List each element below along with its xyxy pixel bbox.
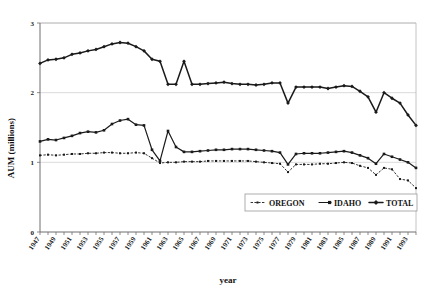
data-point — [375, 174, 377, 176]
data-point — [231, 148, 234, 151]
data-point — [367, 167, 369, 169]
legend-label: TOTAL — [386, 199, 413, 208]
data-point — [327, 163, 329, 165]
data-point — [79, 153, 81, 155]
data-point — [143, 124, 146, 127]
data-point — [95, 152, 97, 154]
y-tick-label: 1 — [31, 159, 35, 167]
data-point — [71, 153, 73, 155]
data-point — [255, 148, 258, 151]
data-point — [199, 150, 202, 153]
data-point — [191, 161, 193, 163]
data-point — [399, 178, 401, 180]
data-point — [167, 161, 169, 163]
data-point — [367, 157, 370, 160]
data-point — [383, 167, 385, 169]
legend-label: OREGON — [269, 199, 305, 208]
data-point — [351, 162, 353, 164]
data-point — [279, 151, 282, 154]
data-point — [383, 153, 386, 156]
data-point — [287, 171, 289, 173]
data-point — [295, 163, 297, 165]
data-point — [263, 149, 266, 152]
data-point — [279, 163, 281, 165]
data-point — [407, 179, 409, 181]
data-point — [183, 161, 185, 163]
data-point — [151, 157, 153, 159]
data-point — [263, 161, 265, 163]
data-point — [119, 119, 122, 122]
data-point — [167, 130, 170, 133]
data-point — [127, 152, 129, 154]
data-point — [103, 152, 105, 154]
y-tick-label: 0 — [31, 229, 35, 237]
data-point — [87, 152, 89, 154]
legend-label: IDAHO — [334, 199, 361, 208]
data-point — [231, 160, 233, 162]
data-point — [159, 162, 161, 164]
data-point — [391, 155, 394, 158]
data-point — [327, 151, 330, 154]
aum-line-chart: 0123 19471949195119531955195719591961196… — [0, 0, 446, 290]
data-point — [215, 160, 217, 162]
data-point — [159, 160, 162, 163]
data-point — [399, 158, 402, 161]
data-point — [271, 162, 273, 164]
data-point — [63, 137, 66, 140]
data-point — [415, 187, 417, 189]
data-point — [55, 154, 57, 156]
data-point — [351, 151, 354, 154]
data-point — [95, 131, 98, 134]
data-point — [295, 153, 298, 156]
data-point — [391, 168, 393, 170]
y-tick-label: 2 — [31, 89, 35, 97]
data-point — [343, 161, 345, 163]
data-point — [303, 152, 306, 155]
data-point — [39, 140, 42, 143]
data-point — [335, 162, 337, 164]
data-point — [415, 167, 418, 170]
data-point — [103, 129, 106, 132]
data-point — [71, 135, 74, 138]
data-point — [215, 148, 218, 151]
x-axis-title: year — [220, 275, 237, 285]
data-point — [55, 139, 58, 142]
data-point — [335, 151, 338, 154]
data-point — [359, 165, 361, 167]
legend-marker — [257, 202, 259, 204]
data-point — [247, 148, 250, 151]
data-point — [175, 146, 178, 149]
data-point — [87, 130, 90, 133]
data-point — [151, 148, 154, 151]
data-point — [143, 152, 145, 154]
data-point — [271, 150, 274, 153]
chart-container: 0123 19471949195119531955195719591961196… — [0, 0, 446, 290]
data-point — [223, 160, 225, 162]
data-point — [407, 161, 410, 164]
data-point — [375, 162, 378, 165]
data-point — [343, 150, 346, 153]
data-point — [111, 123, 114, 126]
data-point — [207, 149, 210, 152]
data-point — [239, 148, 242, 151]
data-point — [359, 154, 362, 157]
y-tick-label: 3 — [31, 20, 35, 28]
data-point — [183, 151, 186, 154]
data-point — [47, 154, 49, 156]
data-point — [175, 161, 177, 163]
y-axis-title: AUM (millions) — [6, 118, 16, 178]
data-point — [47, 138, 50, 141]
legend-marker — [328, 201, 331, 204]
data-point — [39, 154, 41, 156]
data-point — [247, 160, 249, 162]
data-point — [319, 152, 322, 155]
data-point — [303, 163, 305, 165]
data-point — [207, 160, 209, 162]
data-point — [287, 163, 290, 166]
data-point — [119, 152, 121, 154]
data-point — [311, 163, 313, 165]
data-point — [191, 151, 194, 154]
data-point — [127, 118, 130, 121]
data-point — [199, 161, 201, 163]
data-point — [79, 132, 82, 135]
